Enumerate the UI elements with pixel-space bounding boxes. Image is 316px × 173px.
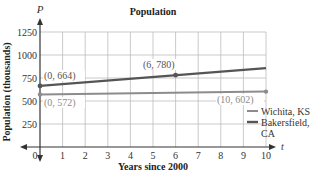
legend-label-bakersfield: Bakersfield, bbox=[261, 117, 310, 128]
population-chart: Population P t 1250 1000 750 500 250 0 1… bbox=[0, 0, 316, 173]
x-tick-6: 6 bbox=[173, 150, 178, 161]
y-axis-title: Population (thousands) bbox=[1, 42, 13, 141]
x-tick-10: 10 bbox=[261, 150, 271, 161]
y-axis-variable: P bbox=[36, 3, 44, 15]
y-tick-1250: 1250 bbox=[17, 27, 37, 38]
x-tick-5: 5 bbox=[151, 150, 156, 161]
annotation-6-780: (6, 780) bbox=[143, 59, 175, 71]
annotation-10-602: (10, 602) bbox=[217, 94, 254, 106]
legend-label-bakersfield-line2: CA bbox=[261, 128, 276, 139]
y-tick-750: 750 bbox=[22, 73, 37, 84]
x-tick-1: 1 bbox=[60, 150, 65, 161]
origin-label: 0 bbox=[33, 150, 38, 161]
legend: Wichita, KS Bakersfield, CA bbox=[247, 106, 310, 139]
chart-title: Population bbox=[130, 6, 177, 17]
axes bbox=[20, 18, 276, 162]
y-axis-arrow-down-icon bbox=[37, 155, 43, 162]
y-tick-1000: 1000 bbox=[17, 50, 37, 61]
grid bbox=[40, 32, 266, 147]
x-tick-7: 7 bbox=[196, 150, 201, 161]
y-tick-labels: 1250 1000 750 500 250 bbox=[17, 27, 37, 130]
x-axis-arrow-left-icon bbox=[20, 144, 27, 150]
y-axis-arrow-up-icon bbox=[37, 18, 43, 25]
x-axis-variable: t bbox=[281, 141, 284, 152]
x-tick-8: 8 bbox=[218, 150, 223, 161]
y-tick-500: 500 bbox=[22, 96, 37, 107]
x-tick-labels: 0 1 2 3 4 5 6 7 8 9 10 bbox=[33, 150, 272, 161]
x-tick-9: 9 bbox=[241, 150, 246, 161]
x-tick-2: 2 bbox=[83, 150, 88, 161]
x-axis-title: Years since 2000 bbox=[118, 161, 188, 172]
y-tick-250: 250 bbox=[22, 119, 37, 130]
annotation-0-572: (0, 572) bbox=[44, 97, 76, 109]
x-tick-4: 4 bbox=[128, 150, 133, 161]
annotation-0-664: (0, 664) bbox=[44, 70, 76, 82]
x-tick-3: 3 bbox=[105, 150, 110, 161]
legend-label-wichita: Wichita, KS bbox=[261, 106, 310, 117]
